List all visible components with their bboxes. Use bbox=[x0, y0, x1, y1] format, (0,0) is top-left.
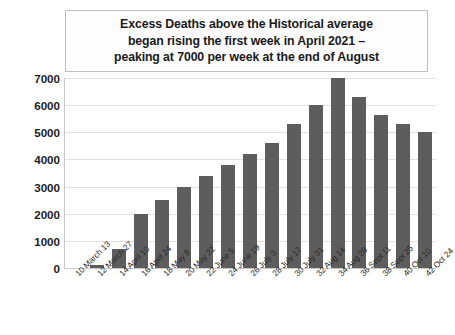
y-tick-label: 5000 bbox=[6, 126, 60, 139]
y-tick-label: 2000 bbox=[6, 207, 60, 220]
bar bbox=[152, 78, 174, 268]
bar-rect bbox=[309, 105, 323, 268]
bar bbox=[392, 78, 414, 268]
bar bbox=[130, 78, 152, 268]
chart-title-box: Excess Deaths above the Historical avera… bbox=[65, 10, 428, 72]
bar bbox=[327, 78, 349, 268]
bar bbox=[283, 78, 305, 268]
bar bbox=[173, 78, 195, 268]
y-tick-label: 4000 bbox=[6, 153, 60, 166]
bar bbox=[64, 78, 86, 268]
y-tick-label: 6000 bbox=[6, 99, 60, 112]
chart-title: Excess Deaths above the Historical avera… bbox=[114, 16, 379, 65]
bar-series bbox=[64, 78, 436, 268]
bar-rect bbox=[352, 97, 366, 268]
bar bbox=[305, 78, 327, 268]
bar-rect bbox=[331, 78, 345, 268]
y-tick-label: 0 bbox=[6, 262, 60, 275]
bar bbox=[195, 78, 217, 268]
y-tick-label: 3000 bbox=[6, 180, 60, 193]
bar bbox=[261, 78, 283, 268]
bar bbox=[217, 78, 239, 268]
bar bbox=[348, 78, 370, 268]
bar bbox=[239, 78, 261, 268]
x-axis-tick-labels: 10 March 1312 March 2714 April 1016 Apri… bbox=[64, 268, 436, 335]
bar bbox=[370, 78, 392, 268]
bar bbox=[414, 78, 436, 268]
y-axis-tick-labels: 01000200030004000500060007000 bbox=[0, 0, 60, 335]
y-tick-label: 7000 bbox=[6, 72, 60, 85]
y-tick-label: 1000 bbox=[6, 234, 60, 247]
